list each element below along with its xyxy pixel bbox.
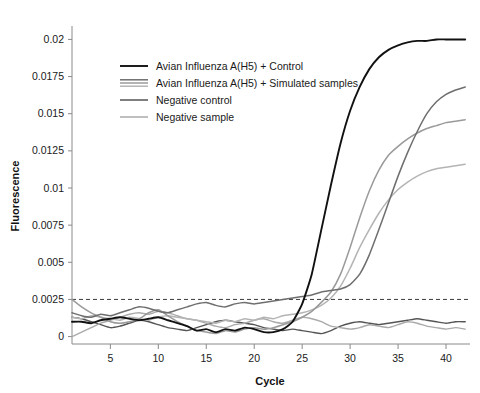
x-tick-label: 15: [200, 352, 212, 364]
x-axis-title: Cycle: [255, 375, 284, 387]
y-tick-label: 0.01: [44, 182, 65, 194]
y-tick-label: 0.0025: [32, 293, 64, 305]
legend-label: Negative sample: [156, 111, 234, 123]
x-tick-label: 5: [107, 352, 113, 364]
x-tick-label: 25: [296, 352, 308, 364]
legend-label: Avian Influenza A(H5) + Simulated sample…: [156, 77, 358, 89]
x-tick-label: 10: [152, 352, 164, 364]
y-tick-label: 0: [58, 330, 64, 342]
x-tick-label: 20: [248, 352, 260, 364]
y-tick-label: 0.0075: [32, 219, 64, 231]
amplification-chart: 00.00250.0050.00750.010.01250.0150.01750…: [0, 0, 480, 393]
y-tick-label: 0.015: [38, 107, 64, 119]
x-tick-label: 40: [440, 352, 452, 364]
x-tick-label: 30: [344, 352, 356, 364]
x-tick-label: 35: [392, 352, 404, 364]
legend-label: Negative control: [156, 94, 232, 106]
legend-label: Avian Influenza A(H5) + Control: [156, 60, 303, 72]
y-tick-label: 0.0125: [32, 144, 64, 156]
chart-canvas: 00.00250.0050.00750.010.01250.0150.01750…: [0, 0, 480, 393]
y-axis-title: Fluorescence: [9, 161, 21, 232]
y-tick-label: 0.0175: [32, 70, 64, 82]
y-tick-label: 0.005: [38, 256, 64, 268]
y-tick-label: 0.02: [44, 33, 65, 45]
